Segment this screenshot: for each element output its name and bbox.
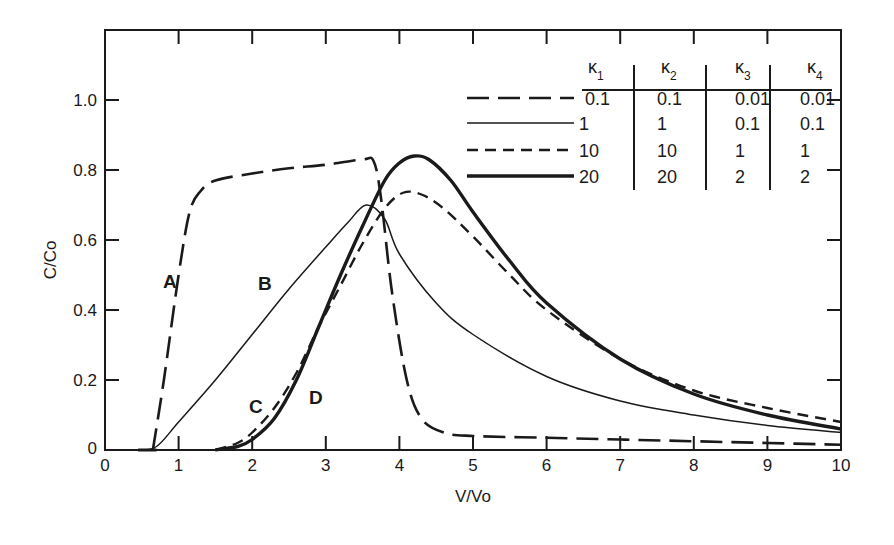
x-tick-label: 4 — [395, 456, 404, 475]
axis-tick-labels: 01234567891000.20.40.60.81.0 — [73, 91, 850, 475]
legend-cell: 0.01 — [735, 89, 770, 109]
legend-cell: 0.1 — [585, 89, 610, 109]
x-tick-label: 2 — [247, 456, 256, 475]
series-b-line — [138, 205, 841, 450]
plot-frame — [105, 30, 841, 450]
x-tick-label: 0 — [100, 456, 109, 475]
legend-cell: 1 — [800, 141, 810, 161]
legend-cell: 0.1 — [657, 89, 682, 109]
x-tick-label: 3 — [321, 456, 330, 475]
curve-labels: A B C D — [163, 271, 323, 417]
y-tick-label: 0.2 — [73, 371, 97, 390]
chart: 01234567891000.20.40.60.81.0 V/Vo C/Co A… — [0, 0, 894, 545]
legend-cell: 0.01 — [800, 89, 835, 109]
legend-header: κ1 — [588, 57, 604, 83]
legend-cell: 20 — [579, 167, 599, 187]
legend-cell: 20 — [657, 167, 677, 187]
y-axis-title: C/Co — [41, 241, 60, 280]
y-tick-label: 0.8 — [73, 161, 97, 180]
legend-header: κ3 — [735, 57, 751, 83]
x-tick-label: 1 — [174, 456, 183, 475]
x-tick-label: 7 — [615, 456, 624, 475]
axis-ticks — [105, 30, 841, 450]
x-tick-label: 10 — [832, 456, 851, 475]
legend-header: κ4 — [807, 57, 823, 83]
x-tick-label: 6 — [542, 456, 551, 475]
curve-label-d: D — [309, 387, 323, 408]
legend-cell: 1 — [735, 141, 745, 161]
legend-cell: 1 — [579, 114, 589, 134]
y-tick-label: 0.6 — [73, 231, 97, 250]
x-tick-label: 5 — [468, 456, 477, 475]
y-tick-label: 1.0 — [73, 91, 97, 110]
x-tick-label: 9 — [763, 456, 772, 475]
legend-cell: 2 — [800, 167, 810, 187]
y-tick-label: 0 — [88, 439, 97, 458]
curve-label-c: C — [249, 396, 263, 417]
data-series — [138, 156, 841, 450]
legend-cell: 2 — [735, 167, 745, 187]
legend-cell: 10 — [657, 141, 677, 161]
legend-cell: 0.1 — [735, 114, 760, 134]
legend-cell: 1 — [657, 114, 667, 134]
legend-header: κ2 — [661, 57, 677, 83]
x-axis-title: V/Vo — [455, 487, 491, 506]
legend-cell: 0.1 — [800, 114, 825, 134]
legend-table: κ1κ2κ3κ40.10.10.010.01110.10.11010112020… — [467, 57, 835, 190]
legend-cell: 10 — [579, 141, 599, 161]
y-tick-label: 0.4 — [73, 301, 97, 320]
x-tick-label: 8 — [689, 456, 698, 475]
curve-label-a: A — [163, 271, 177, 292]
curve-label-b: B — [258, 273, 272, 294]
